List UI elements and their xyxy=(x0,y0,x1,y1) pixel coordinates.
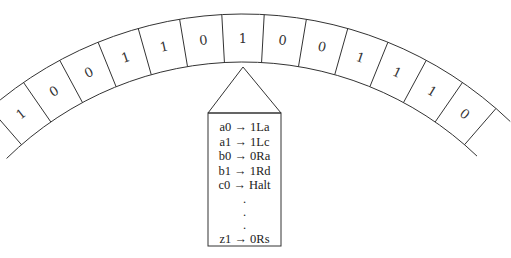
tape-cell-symbol: 1 xyxy=(158,38,169,54)
rule-table: a0 → 1La a1 → 1Lc b0 → 0Ra b1 → 1Rd c0 →… xyxy=(208,114,281,246)
tape-cell-symbol: 0 xyxy=(278,32,288,48)
head-pointer xyxy=(208,67,281,113)
tape-cell-symbol: 1 xyxy=(425,83,440,100)
tape-cell-symbol: 0 xyxy=(198,32,208,48)
tape-cell-divider xyxy=(138,28,151,74)
tape-cell-divider xyxy=(370,42,388,86)
tape-cell-divider xyxy=(98,42,116,86)
tape-cell-divider xyxy=(222,15,225,63)
tape-cell-divider xyxy=(298,19,306,66)
tape-cell-symbol: 0 xyxy=(316,38,327,54)
tape-cell-divider xyxy=(335,28,348,74)
rule-last: z1 → 0Rs xyxy=(220,232,270,247)
tape-cell-symbol: 1 xyxy=(354,49,367,66)
tape-cell-symbol: 1 xyxy=(390,64,404,81)
tape-cell-divider xyxy=(262,15,265,63)
rule-0: a0 → 1La xyxy=(220,120,270,135)
tape-cell-symbol: 1 xyxy=(239,31,247,46)
rule-1: a1 → 1Lc xyxy=(220,135,270,150)
tape-cell-symbol: 0 xyxy=(46,83,61,100)
tape-cell-divider xyxy=(404,60,427,102)
ellipsis-dot: . xyxy=(243,193,246,206)
tape-cell-symbol: 0 xyxy=(457,105,473,122)
tape-cell-symbol: 0 xyxy=(82,64,96,81)
tape-cell-symbol: 1 xyxy=(13,105,29,122)
tape-cell-divider xyxy=(60,60,83,102)
rule-4: c0 → Halt xyxy=(218,178,270,193)
tape-outer-edge xyxy=(0,14,510,124)
tape-cell-divider xyxy=(180,19,188,66)
ellipsis-dot: . xyxy=(243,206,246,219)
rule-3: b1 → 1Rd xyxy=(218,164,270,179)
ellipsis-dot: . xyxy=(243,219,246,232)
rule-2: b0 → 0Ra xyxy=(219,149,270,164)
tape-cell-symbol: 1 xyxy=(119,49,132,66)
